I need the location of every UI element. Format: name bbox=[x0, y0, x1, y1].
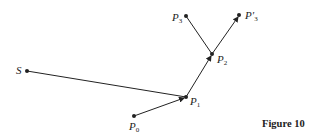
edge-p2-p3prime bbox=[212, 17, 238, 54]
point-p3 bbox=[184, 14, 188, 18]
label-p2: P2 bbox=[217, 54, 227, 67]
label-p1-text: P bbox=[190, 95, 197, 107]
point-p3prime bbox=[237, 13, 241, 17]
label-p3prime-text: P′ bbox=[245, 9, 254, 21]
label-p2-text: P bbox=[217, 53, 224, 65]
point-p1 bbox=[184, 95, 188, 99]
label-p0-sub: 0 bbox=[136, 126, 140, 134]
point-s bbox=[25, 69, 29, 73]
edge-s-p1 bbox=[27, 71, 186, 97]
edge-p0-p1 bbox=[134, 98, 184, 116]
label-p0-text: P bbox=[129, 120, 136, 132]
label-s-text: S bbox=[16, 64, 22, 76]
label-p0: P0 bbox=[129, 121, 139, 134]
figure-caption: Figure 10 bbox=[262, 118, 305, 129]
label-p1-sub: 1 bbox=[197, 101, 201, 109]
label-p3-sub: 3 bbox=[179, 17, 183, 25]
label-p1: P1 bbox=[190, 96, 200, 109]
label-p3prime-sub: 3 bbox=[254, 15, 258, 23]
point-p2 bbox=[210, 52, 214, 56]
label-s: S bbox=[16, 65, 22, 76]
edge-p2-p3 bbox=[186, 16, 212, 54]
point-p0 bbox=[132, 114, 136, 118]
edge-p1-p2 bbox=[186, 56, 211, 97]
label-p3: P3 bbox=[172, 12, 182, 25]
label-p3prime: P′3 bbox=[245, 10, 258, 23]
label-p3-text: P bbox=[172, 11, 179, 23]
label-p2-sub: 2 bbox=[224, 59, 228, 67]
